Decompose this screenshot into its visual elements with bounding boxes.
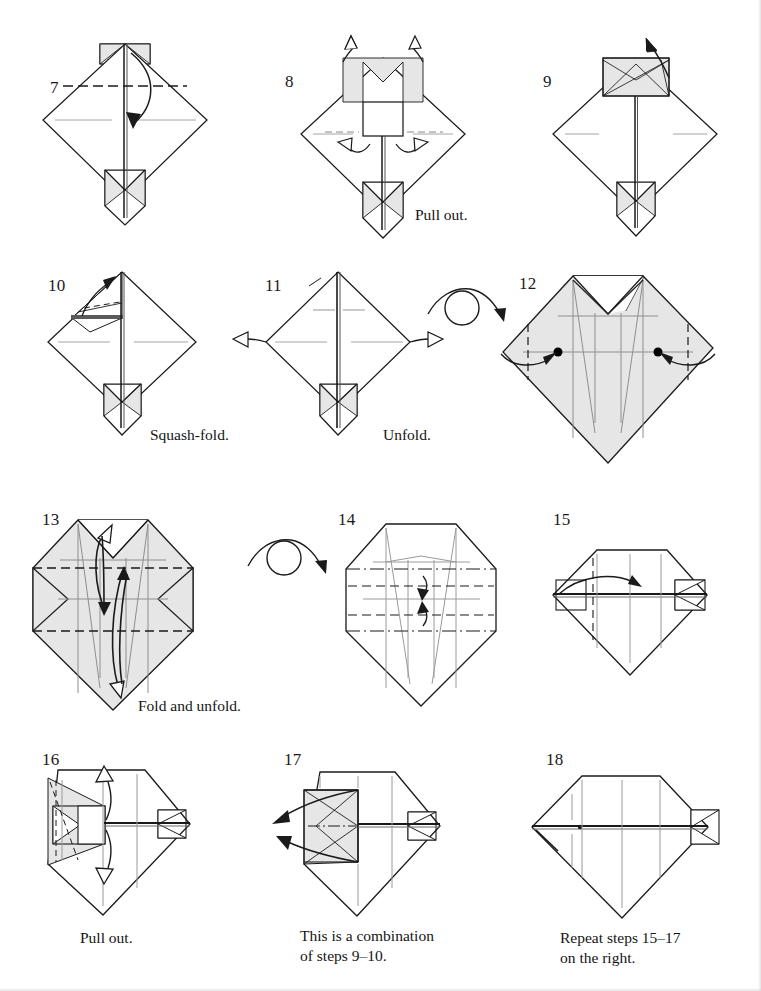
step-17-caption: This is a combination of steps 9–10. (300, 926, 434, 966)
step-9-figure-group: 9 (505, 20, 760, 255)
step-12-diagram (495, 258, 760, 478)
step-9-diagram (505, 20, 760, 255)
step-18-figure-group: 18 Repeat steps 15–17 on the right. (518, 738, 761, 973)
step-10-figure-group: 10 (0, 260, 250, 470)
step-15-figure-group: 15 (523, 498, 761, 683)
step-14-diagram (318, 498, 543, 708)
step-16-caption: Pull out. (80, 928, 133, 948)
step-8-diagram (255, 20, 515, 255)
reference-dot-right (654, 348, 663, 357)
step-7-figure-group: 7 (0, 20, 250, 250)
step-12-figure-group: 12 (495, 258, 760, 478)
hollow-unfold-left (233, 332, 266, 347)
step-17-figure-group: 17 (262, 738, 530, 973)
step-16-figure-group: 16 (0, 738, 265, 963)
reference-dot-left (554, 348, 563, 357)
step-7-diagram (0, 20, 250, 250)
step-18-caption: Repeat steps 15–17 on the right. (560, 928, 681, 968)
step-14-figure-group: 14 (318, 498, 543, 708)
step-15-diagram (523, 498, 761, 683)
step-11-caption: Unfold. (383, 425, 431, 445)
step-11-figure-group: 11 (225, 260, 485, 470)
step-10-caption: Squash-fold. (150, 425, 229, 445)
step-13-caption: Fold and unfold. (138, 696, 241, 716)
step-8-caption: Pull out. (415, 205, 468, 225)
step-8-figure-group: 8 (255, 20, 515, 255)
step-13-figure-group: 13 (0, 498, 275, 733)
instruction-page: 7 (0, 0, 761, 991)
